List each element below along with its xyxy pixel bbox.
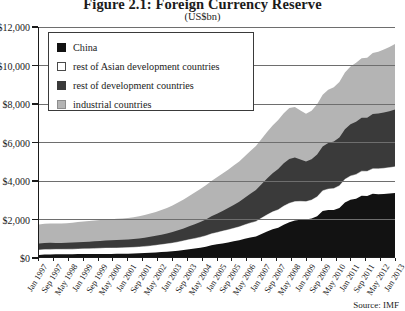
x-tick-mark xyxy=(231,258,232,261)
legend-swatch-darkgray-icon xyxy=(57,81,66,90)
x-tick-mark xyxy=(380,258,381,261)
x-tick-mark xyxy=(261,258,262,261)
legend-item-asian-dev: rest of Asian development countries xyxy=(57,57,253,76)
legend-item-china: China xyxy=(57,38,253,57)
x-tick-mark xyxy=(202,258,203,261)
gridline xyxy=(39,181,395,182)
legend-label-industrial: industrial countries xyxy=(73,99,151,110)
x-tick-mark xyxy=(68,258,69,261)
x-tick-mark xyxy=(217,258,218,261)
legend-swatch-white-icon xyxy=(57,62,66,71)
y-tick-label: $0 xyxy=(20,253,30,264)
x-tick-mark xyxy=(246,258,247,261)
y-tick-label: $4,000 xyxy=(3,176,31,187)
y-axis: $0$2,000$4,000$6,000$8,000$10,000$12,000 xyxy=(0,27,38,258)
gridline xyxy=(39,219,395,220)
x-tick-mark xyxy=(83,258,84,261)
x-tick-mark xyxy=(350,258,351,261)
x-tick-mark xyxy=(291,258,292,261)
gridline xyxy=(39,142,395,143)
legend-item-industrial: industrial countries xyxy=(57,95,253,114)
x-tick-mark xyxy=(53,258,54,261)
y-tick-label: $12,000 xyxy=(0,22,30,33)
x-tick-mark xyxy=(112,258,113,261)
legend: China rest of Asian development countrie… xyxy=(48,32,254,111)
y-tick-label: $2,000 xyxy=(3,214,31,225)
x-tick-mark xyxy=(321,258,322,261)
x-tick-mark xyxy=(395,258,396,261)
legend-label-asian-dev: rest of Asian development countries xyxy=(73,61,220,72)
x-tick-mark xyxy=(142,258,143,261)
x-axis: Jan 1997Sep 1997May 1998Jan 1999Sep 1999… xyxy=(38,258,395,311)
legend-label-rest-dev: rest of development countries xyxy=(73,80,194,91)
figure-container: Figure 2.1: Foreign Currency Reserve (US… xyxy=(0,0,405,311)
x-tick-mark xyxy=(172,258,173,261)
x-tick-mark xyxy=(187,258,188,261)
x-tick-mark xyxy=(127,258,128,261)
y-tick-label: $8,000 xyxy=(3,99,31,110)
gridline xyxy=(39,27,395,28)
y-tick-label: $6,000 xyxy=(3,137,31,148)
legend-label-china: China xyxy=(73,42,97,53)
legend-swatch-lightgray-icon xyxy=(57,100,66,109)
x-tick-mark xyxy=(38,258,39,261)
x-tick-mark xyxy=(306,258,307,261)
x-tick-mark xyxy=(365,258,366,261)
x-tick-mark xyxy=(157,258,158,261)
y-tick-label: $10,000 xyxy=(0,60,30,71)
x-tick-mark xyxy=(98,258,99,261)
figure-subtitle: (US$bn) xyxy=(0,11,405,22)
legend-item-rest-dev: rest of development countries xyxy=(57,76,253,95)
source-note: Source: IMF xyxy=(353,300,399,310)
legend-swatch-black-icon xyxy=(57,43,66,52)
x-tick-mark xyxy=(336,258,337,261)
x-tick-mark xyxy=(276,258,277,261)
